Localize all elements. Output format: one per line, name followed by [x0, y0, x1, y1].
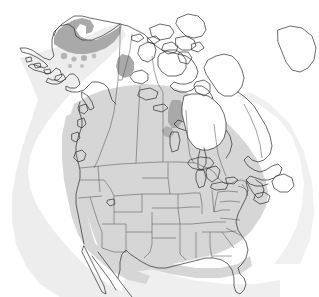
range-secondary-alaska-spot-5: [68, 64, 72, 68]
greenland-edge-outline: [278, 26, 316, 72]
north-america-map: [0, 0, 319, 297]
ellesmere-island-outline: [176, 14, 206, 38]
banks-island-outline: [138, 42, 156, 62]
range-primary-layer: [62, 84, 268, 284]
arctic-islet-3: [192, 42, 204, 52]
range-secondary-alaska-spot-6: [80, 64, 84, 68]
range-map-figure: [0, 0, 319, 297]
range-secondary-alaska-spot-4: [92, 54, 97, 59]
arctic-islet-2: [132, 34, 144, 42]
victoria-island-outline: [158, 50, 186, 76]
southampton-island-outline: [194, 80, 210, 96]
range-secondary-alaska-spot-1: [61, 53, 67, 59]
newfoundland-outline: [272, 174, 294, 192]
great-bear-lake-outline: [130, 70, 148, 84]
range-secondary-alaska-spot-3: [81, 55, 87, 61]
melville-island-outline: [150, 24, 174, 40]
range-secondary-alaska-spot-2: [71, 56, 76, 61]
